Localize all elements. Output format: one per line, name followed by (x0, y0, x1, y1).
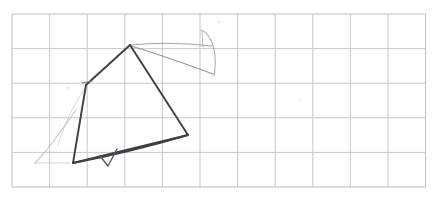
sketch-svg (0, 0, 439, 215)
smudge-dot-left (67, 87, 69, 89)
smudge-dot-center (218, 21, 220, 23)
sketch-canvas (0, 0, 439, 215)
canvas-background (0, 0, 439, 215)
smudge-dot-right (299, 99, 301, 101)
